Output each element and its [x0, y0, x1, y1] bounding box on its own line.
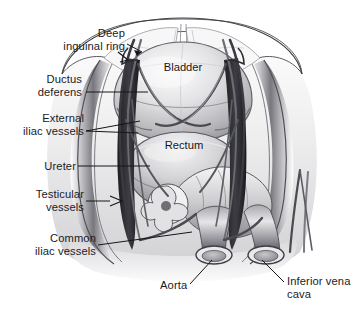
label-ductus-deferens: Ductus deferens: [38, 73, 82, 98]
label-deep-inguinal-ring: Deep inguinal ring: [63, 27, 125, 52]
aorta-cut-end: [196, 246, 232, 264]
label-bladder: Bladder: [155, 61, 211, 74]
label-rectum: Rectum: [158, 139, 210, 152]
anatomy-illustration: [0, 0, 363, 316]
label-common-iliac-vessels: Common iliac vessels: [35, 232, 96, 257]
anatomy-figure: Deep inguinal ring Ductus deferens Exter…: [0, 0, 363, 316]
ivc-cut-end: [248, 246, 284, 264]
label-aorta: Aorta: [160, 279, 187, 292]
label-testicular-vessels: Testicular vessels: [36, 188, 84, 213]
label-external-iliac-vessels: External iliac vessels: [23, 112, 84, 137]
label-inferior-vena-cava: Inferior vena cava: [287, 275, 351, 300]
label-ureter: Ureter: [44, 160, 76, 173]
